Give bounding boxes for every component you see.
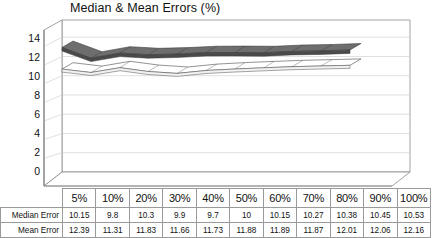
cell-mean-40: 11.73 <box>196 223 229 238</box>
table-header-60: 60% <box>263 189 296 208</box>
table-header-70: 70% <box>297 189 330 208</box>
table-header-30: 30% <box>163 189 196 208</box>
cell-median-20: 10.3 <box>129 208 162 223</box>
row-label-median-error: Median Error <box>1 208 63 223</box>
cell-mean-100: 12.16 <box>397 223 430 238</box>
cell-median-40: 9.7 <box>196 208 229 223</box>
cell-mean-20: 11.83 <box>129 223 162 238</box>
cell-mean-10: 11.31 <box>96 223 129 238</box>
table-header-5: 5% <box>63 189 96 208</box>
cell-mean-30: 11.66 <box>163 223 196 238</box>
cell-mean-70: 11.87 <box>297 223 330 238</box>
cell-median-50: 10 <box>230 208 263 223</box>
table-header-50: 50% <box>230 189 263 208</box>
cell-mean-80: 12.01 <box>330 223 363 238</box>
cell-mean-5: 12.39 <box>63 223 96 238</box>
table-corner-cell <box>1 189 63 208</box>
cell-median-60: 10.15 <box>263 208 296 223</box>
cell-median-70: 10.27 <box>297 208 330 223</box>
table-header-20: 20% <box>129 189 162 208</box>
cell-mean-90: 12.06 <box>364 223 397 238</box>
table-header-row: 5% 10% 20% 30% 40% 50% 60% 70% 80% 90% 1… <box>1 189 431 208</box>
cell-median-10: 9.8 <box>96 208 129 223</box>
cell-median-5: 10.15 <box>63 208 96 223</box>
plot-back-wall <box>62 20 410 172</box>
row-label-mean-error: Mean Error <box>1 223 63 238</box>
cell-mean-60: 11.89 <box>263 223 296 238</box>
table-header-40: 40% <box>196 189 229 208</box>
chart-plot-area <box>0 0 432 200</box>
cell-median-90: 10.45 <box>364 208 397 223</box>
cell-median-100: 10.53 <box>397 208 430 223</box>
cell-median-30: 9.9 <box>163 208 196 223</box>
table-row-mean: Mean Error 12.39 11.31 11.83 11.66 11.73… <box>1 223 431 238</box>
table-header-100: 100% <box>397 189 430 208</box>
data-table: 5% 10% 20% 30% 40% 50% 60% 70% 80% 90% 1… <box>0 188 431 238</box>
chart-page: Median & Mean Errors (%) 14 12 10 8 6 4 … <box>0 0 432 238</box>
table-row-median: Median Error 10.15 9.8 10.3 9.9 9.7 10 1… <box>1 208 431 223</box>
table-header-10: 10% <box>96 189 129 208</box>
table-header-90: 90% <box>364 189 397 208</box>
table-header-80: 80% <box>330 189 363 208</box>
cell-mean-50: 11.88 <box>230 223 263 238</box>
cell-median-80: 10.38 <box>330 208 363 223</box>
plot-floor <box>44 172 410 186</box>
